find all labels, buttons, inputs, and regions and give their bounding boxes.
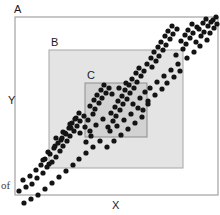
scatter-point bbox=[156, 53, 161, 58]
scatter-point bbox=[29, 181, 34, 186]
scatter-point bbox=[149, 64, 154, 69]
scatter-point bbox=[121, 117, 126, 122]
scatter-point bbox=[93, 122, 98, 127]
scatter-point bbox=[161, 73, 166, 78]
marginal-text-fragment: of bbox=[1, 179, 11, 191]
scatter-point bbox=[135, 105, 140, 110]
scatter-point bbox=[136, 65, 141, 70]
scatter-point bbox=[16, 188, 21, 193]
scatter-point bbox=[128, 111, 133, 116]
scatter-point bbox=[99, 95, 104, 100]
scatter-point bbox=[177, 68, 182, 73]
scatter-point bbox=[129, 76, 134, 81]
scatter-point bbox=[83, 150, 88, 155]
scatter-point bbox=[164, 80, 169, 85]
scatter-point bbox=[38, 162, 43, 167]
scatter-point bbox=[133, 70, 138, 75]
scatter-point bbox=[124, 96, 129, 101]
scatter-point bbox=[88, 133, 93, 138]
scatter-point bbox=[83, 139, 88, 144]
scatter-point bbox=[109, 91, 114, 96]
scatter-point bbox=[108, 110, 113, 115]
scatter-point bbox=[191, 49, 196, 54]
scatter-point bbox=[142, 89, 147, 94]
scatter-point bbox=[158, 39, 163, 44]
scatter-point bbox=[139, 114, 144, 119]
scatter-point bbox=[147, 85, 152, 90]
scatter-point bbox=[35, 192, 40, 197]
scatter-point bbox=[85, 117, 90, 122]
scatter-point bbox=[174, 26, 179, 31]
scatter-point bbox=[132, 120, 137, 125]
scatter-figure: A B C Y X of bbox=[0, 0, 220, 215]
scatter-point bbox=[70, 162, 75, 167]
scatter-point bbox=[184, 55, 189, 60]
scatter-point bbox=[137, 95, 142, 100]
scatter-point bbox=[134, 79, 139, 84]
scatter-point bbox=[159, 86, 164, 91]
scatter-point bbox=[123, 80, 128, 85]
scatter-point bbox=[28, 196, 33, 201]
scatter-point bbox=[53, 154, 58, 159]
scatter-point bbox=[175, 61, 180, 66]
scatter-point bbox=[91, 97, 96, 102]
scatter-point bbox=[163, 42, 168, 47]
scatter-point bbox=[63, 168, 68, 173]
scatter-point bbox=[117, 107, 122, 112]
region-b-label: B bbox=[51, 36, 58, 48]
scatter-point bbox=[90, 111, 95, 116]
scatter-point bbox=[185, 27, 190, 32]
scatter-point bbox=[42, 186, 47, 191]
scatter-points bbox=[16, 14, 219, 205]
scatter-point bbox=[183, 41, 188, 46]
x-axis-label: X bbox=[112, 199, 120, 211]
scatter-point bbox=[119, 93, 124, 98]
scatter-point bbox=[207, 30, 212, 35]
scatter-point bbox=[122, 87, 127, 92]
scatter-point bbox=[151, 49, 156, 54]
y-axis-label: Y bbox=[8, 94, 16, 106]
scatter-point bbox=[20, 177, 25, 182]
scatter-point bbox=[97, 138, 102, 143]
scatter-point bbox=[196, 26, 201, 31]
scatter-point bbox=[34, 175, 39, 180]
scatter-point bbox=[87, 128, 92, 133]
scatter-point bbox=[168, 67, 173, 72]
scatter-point bbox=[203, 16, 208, 21]
scatter-point bbox=[162, 33, 167, 38]
scatter-point bbox=[104, 144, 109, 149]
scatter-point bbox=[193, 39, 198, 44]
scatter-point bbox=[165, 28, 170, 33]
scatter-point bbox=[138, 73, 143, 78]
scatter-point bbox=[92, 106, 97, 111]
scatter-point bbox=[81, 113, 86, 118]
scatter-point bbox=[74, 123, 79, 128]
scatter-point bbox=[45, 149, 50, 154]
scatter-point bbox=[57, 148, 62, 153]
scatter-point bbox=[76, 110, 81, 115]
scatter-point bbox=[53, 135, 58, 140]
scatter-point bbox=[127, 90, 132, 95]
scatter-point bbox=[169, 23, 174, 28]
scatter-point bbox=[58, 137, 63, 142]
scatter-point bbox=[148, 55, 153, 60]
scatter-point bbox=[98, 87, 103, 92]
scatter-point bbox=[173, 52, 178, 57]
scatter-point bbox=[101, 82, 106, 87]
scatter-point bbox=[197, 43, 202, 48]
scatter-point bbox=[107, 128, 112, 133]
scatter-point bbox=[40, 170, 45, 175]
scatter-point bbox=[140, 107, 145, 112]
plot-canvas: A B C Y X of bbox=[0, 0, 220, 215]
scatter-point bbox=[100, 116, 105, 121]
scatter-point bbox=[167, 36, 172, 41]
scatter-point bbox=[113, 113, 118, 118]
scatter-point bbox=[125, 126, 130, 131]
scatter-point bbox=[77, 118, 82, 123]
scatter-point bbox=[170, 31, 175, 36]
scatter-point bbox=[213, 14, 218, 19]
scatter-point bbox=[180, 46, 185, 51]
scatter-point bbox=[189, 21, 194, 26]
scatter-point bbox=[187, 35, 192, 40]
scatter-point bbox=[72, 116, 77, 121]
